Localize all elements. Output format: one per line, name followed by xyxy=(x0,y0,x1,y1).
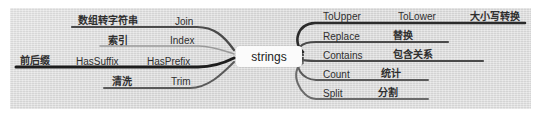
label-replace-en: Replace xyxy=(323,32,360,42)
label-hasprefix-cn: 前后缀 xyxy=(20,56,50,66)
label-trim-cn: 清洗 xyxy=(112,77,132,87)
label-contains-en: Contains xyxy=(323,51,362,61)
label-replace-cn: 替换 xyxy=(393,31,413,41)
center-node-label: strings xyxy=(251,50,286,64)
center-node-strings[interactable]: strings xyxy=(236,46,302,67)
label-tolower-en: ToLower xyxy=(398,12,436,22)
branch-line-count xyxy=(298,61,428,80)
label-join-cn: 数组转字符串 xyxy=(78,16,138,26)
label-hasprefix-en: HasPrefix xyxy=(147,57,190,67)
label-join-en: Join xyxy=(175,17,193,27)
label-contains-cn: 包含关系 xyxy=(393,50,433,60)
label-toupper-en: ToUpper xyxy=(323,12,361,22)
label-index-en: Index xyxy=(170,36,194,46)
label-case-convert-cn: 大小写转换 xyxy=(470,12,520,22)
label-index-cn: 索引 xyxy=(108,36,128,46)
mindmap-root: 数组转字符串 Join 索引 Index 前后缀 HasSuffix HasPr… xyxy=(0,0,537,117)
label-trim-en: Trim xyxy=(171,77,191,87)
label-split-cn: 分割 xyxy=(378,88,398,98)
label-count-cn: 统计 xyxy=(381,69,401,79)
label-count-en: Count xyxy=(323,70,350,80)
label-split-en: Split xyxy=(323,89,342,99)
branch-line-index xyxy=(100,46,234,54)
label-hassuffix-en: HasSuffix xyxy=(76,57,119,67)
